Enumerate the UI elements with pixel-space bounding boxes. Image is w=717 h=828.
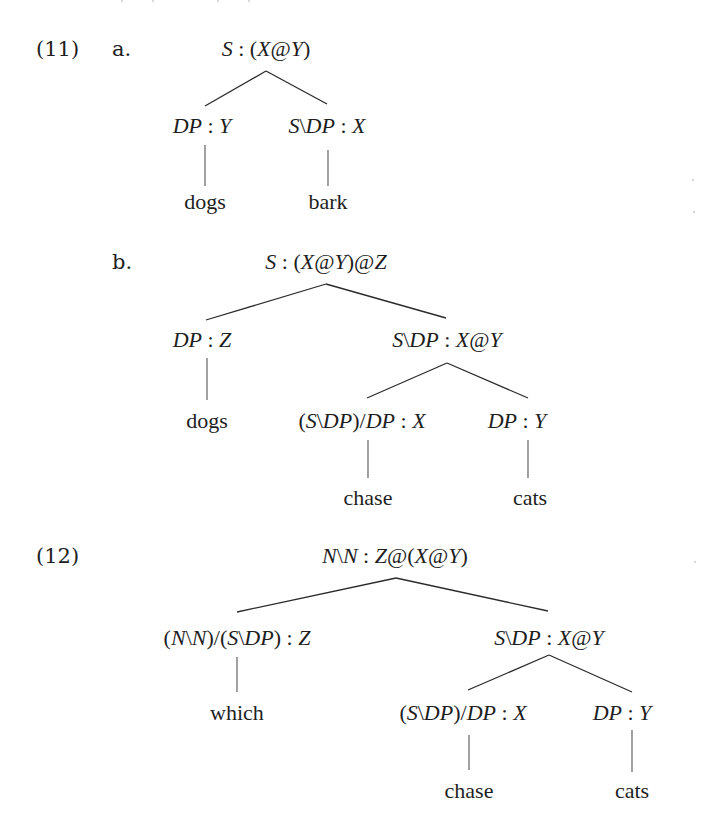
example-11a: (11) a. S : (X@Y) DP : Y S\DP : X dogs b… — [36, 36, 367, 214]
leaf-word: dogs — [184, 189, 226, 214]
branch-line — [266, 71, 327, 104]
sub-example-label: a. — [112, 37, 131, 61]
example-12: (12) N\N : Z@(X@Y) (N\N)/(S\DP) : Z S\DP… — [36, 543, 654, 803]
branch-line — [326, 284, 446, 318]
node-label: DP : Z — [172, 327, 232, 352]
root-node: S : (X@Y) — [222, 36, 311, 61]
branch-line — [447, 363, 528, 398]
node-label: DP : Y — [487, 408, 549, 433]
branch-line — [468, 655, 549, 690]
node-label: DP : Y — [592, 700, 654, 725]
scan-artifacts — [121, 0, 696, 563]
branch-line — [237, 578, 396, 612]
node-label: S\DP : X@Y — [494, 625, 606, 650]
branch-line — [549, 655, 632, 692]
sub-example-label: b. — [112, 250, 132, 274]
leaf-word: bark — [308, 189, 347, 214]
leaf-word: dogs — [186, 408, 228, 433]
leaf-word: chase — [445, 778, 494, 803]
branch-line — [205, 71, 266, 106]
syntax-tree-figure: (11) a. S : (X@Y) DP : Y S\DP : X dogs b… — [0, 0, 717, 828]
node-label: (N\N)/(S\DP) : Z — [164, 625, 312, 650]
root-node: S : (X@Y)@Z — [265, 249, 387, 274]
example-11b: b. S : (X@Y)@Z DP : Z S\DP : X@Y dogs (S… — [112, 249, 549, 510]
branch-line — [396, 578, 548, 611]
root-node: N\N : Z@(X@Y) — [321, 543, 468, 568]
node-label: DP : Y — [172, 113, 234, 138]
leaf-word: chase — [344, 485, 393, 510]
example-number: (11) — [36, 37, 79, 61]
node-label: (S\DP)/DP : X — [298, 408, 427, 433]
node-label: S\DP : X — [288, 113, 367, 138]
branch-line — [367, 363, 447, 398]
node-label: (S\DP)/DP : X — [399, 700, 528, 725]
leaf-word: cats — [513, 485, 547, 510]
leaf-word: which — [210, 700, 264, 725]
example-number: (12) — [36, 544, 79, 568]
node-label: S\DP : X@Y — [392, 327, 504, 352]
leaf-word: cats — [615, 778, 649, 803]
branch-line — [206, 284, 326, 320]
